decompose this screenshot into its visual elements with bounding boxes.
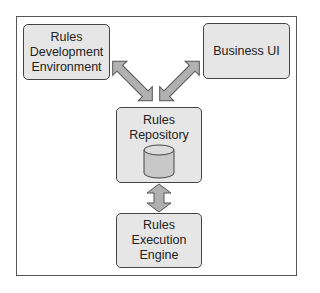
node-label-line: Engine [140, 248, 179, 263]
node-label-line: Repository [129, 128, 189, 143]
node-label-line: Development [30, 45, 104, 60]
node-label-line: Rules [143, 113, 175, 128]
business-ui-node: Business UI [203, 23, 290, 79]
node-label-line: Business UI [213, 44, 280, 59]
rules-development-environment-node: Rules Development Environment [23, 24, 110, 80]
rules-execution-engine-node: Rules Execution Engine [116, 213, 202, 268]
node-label-line: Rules [51, 30, 83, 45]
rules-repository-node: Rules Repository [116, 107, 202, 183]
node-label-line: Rules Execution [117, 218, 201, 248]
node-label-line: Environment [31, 60, 101, 75]
